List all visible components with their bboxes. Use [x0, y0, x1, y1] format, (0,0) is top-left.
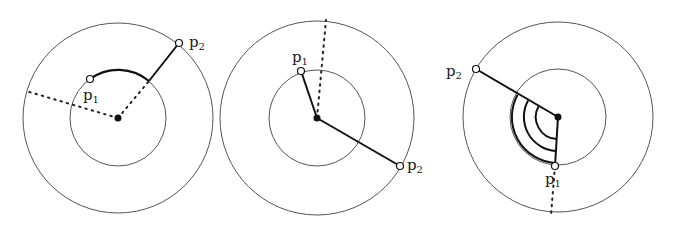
label-p2: p2 [189, 33, 205, 52]
solid-segment-p2 [476, 69, 558, 117]
label-p1: p1 [292, 48, 308, 67]
solid-arc [90, 70, 149, 81]
center-point [115, 115, 122, 122]
center-point [555, 114, 562, 121]
dotted-ray [26, 91, 118, 118]
angle-arc-outer [512, 95, 555, 163]
solid-segment-p1 [301, 71, 317, 118]
label-p1: p1 [545, 170, 561, 189]
point-p1 [552, 163, 559, 170]
solid-segment-p2 [317, 118, 400, 166]
label-p2: p2 [407, 156, 423, 175]
center-point [314, 115, 321, 122]
label-p2: p2 [446, 62, 462, 81]
point-p1 [298, 68, 305, 75]
solid-segment [149, 43, 179, 81]
panel-2: p1 p2 [220, 20, 423, 215]
point-p2 [397, 163, 404, 170]
dotted-ray [317, 20, 326, 118]
label-p1: p1 [83, 86, 99, 105]
panel-1: p1 p2 [23, 23, 213, 213]
point-p1 [87, 76, 94, 83]
panel-3: p1 p2 [446, 22, 653, 215]
angle-arc-middle [524, 101, 556, 151]
dotted-ray [118, 81, 149, 118]
point-p2 [176, 40, 183, 47]
point-p2 [473, 66, 480, 73]
diagram-canvas: p1 p2 p1 p2 p1 p2 [0, 0, 679, 232]
solid-segment-p1 [555, 117, 558, 166]
